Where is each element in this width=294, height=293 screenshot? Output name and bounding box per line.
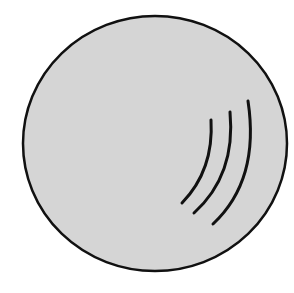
gray-disc xyxy=(23,16,287,271)
figure-canvas xyxy=(0,0,294,293)
